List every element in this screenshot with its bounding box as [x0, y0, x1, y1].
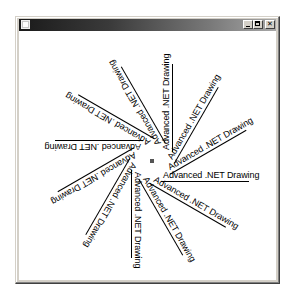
label-text: Advanced .NET Drawing: [45, 142, 141, 152]
underline: [131, 170, 132, 258]
minimize-button[interactable]: [243, 20, 253, 29]
app-window: ✕ Advanced .NET DrawingAdvanced .NET Dra…: [15, 16, 280, 284]
underline: [172, 64, 173, 152]
title-bar[interactable]: ✕: [19, 19, 276, 31]
center-point-marker: [150, 159, 154, 163]
drawing-canvas: Advanced .NET DrawingAdvanced .NET Drawi…: [19, 31, 276, 280]
close-button[interactable]: ✕: [265, 20, 275, 29]
underline: [161, 181, 249, 182]
maximize-button[interactable]: [253, 20, 263, 29]
label-text: Advanced .NET Drawing: [161, 54, 171, 150]
label-text: Advanced .NET Drawing: [163, 170, 259, 180]
underline: [55, 140, 143, 141]
system-menu-icon[interactable]: [21, 20, 30, 29]
label-text: Advanced .NET Drawing: [133, 172, 143, 268]
